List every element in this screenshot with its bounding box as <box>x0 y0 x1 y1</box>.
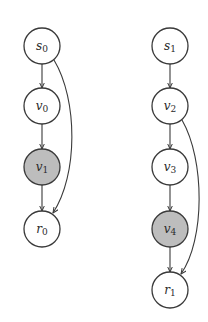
node-v4: v4 <box>152 211 188 247</box>
graph-left-edges <box>42 60 72 213</box>
node-v3: v3 <box>152 149 188 185</box>
node-s1: s1 <box>152 28 188 64</box>
node-r0: r0 <box>24 211 60 247</box>
node-r1: r1 <box>152 272 188 308</box>
edge-s0-r0-curved <box>53 60 72 213</box>
node-v0: v0 <box>24 88 60 124</box>
diagram-canvas: s0 v0 v1 r0 s1 v2 v3 v4 r1 <box>0 0 208 322</box>
node-v2: v2 <box>152 88 188 124</box>
edge-v2-r1-curved <box>181 120 199 274</box>
node-s0: s0 <box>24 28 60 64</box>
node-v1: v1 <box>24 149 60 185</box>
